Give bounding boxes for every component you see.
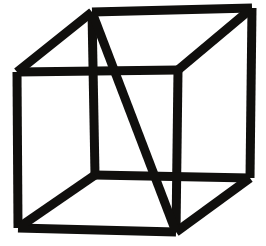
cube-edge-back-face-left xyxy=(92,12,95,175)
cube-edge-front-face-right xyxy=(176,70,178,232)
cube-edge-back-face-top xyxy=(92,8,252,12)
cube-edge-back-face-right xyxy=(250,8,252,178)
cube-edge-back-face-bottom xyxy=(95,175,250,178)
cube-edge-front-face-left xyxy=(17,72,18,228)
necker-cube-figure xyxy=(0,0,266,246)
necker-cube-canvas xyxy=(0,0,266,246)
cube-edge-front-face-bottom xyxy=(18,228,176,232)
